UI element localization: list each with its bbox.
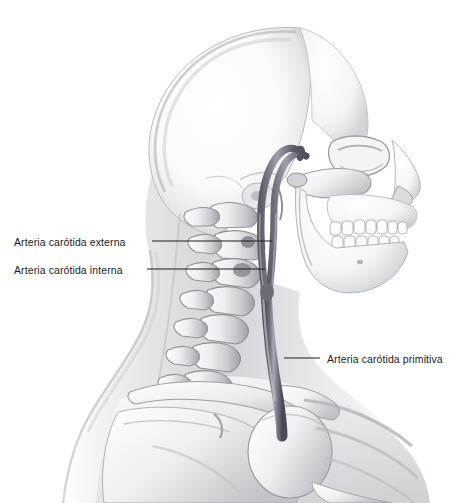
mental-foramen bbox=[357, 260, 363, 264]
anatomy-illustration bbox=[0, 0, 470, 503]
carotid-bifurcation bbox=[260, 283, 274, 301]
label-arteria-carotida-interna: Arteria carótida interna bbox=[14, 264, 123, 276]
mandibular-condyle bbox=[287, 173, 307, 187]
label-arteria-carotida-primitiva: Arteria carótida primitiva bbox=[327, 353, 443, 365]
figure-canvas: Arteria carótida externa Arteria carótid… bbox=[0, 0, 470, 503]
label-arteria-carotida-externa: Arteria carótida externa bbox=[14, 236, 126, 248]
